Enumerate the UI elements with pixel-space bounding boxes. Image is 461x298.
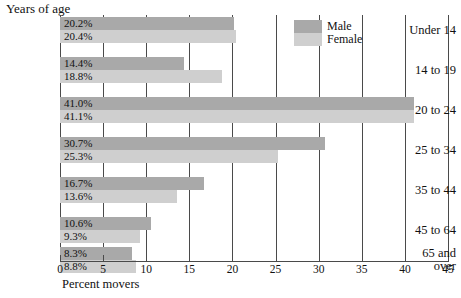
bar-group-4-female: 25.3% [60, 150, 448, 163]
bar-group-2-female: 18.8% [60, 70, 448, 83]
legend-swatch-female-icon [294, 33, 322, 46]
bar-value-label: 10.6% [64, 217, 92, 230]
category-label-3: 20 to 24 [400, 104, 456, 117]
category-label-2: 14 to 19 [400, 64, 456, 77]
bar-value-label: 14.4% [64, 57, 92, 70]
x-tick-label-30: 30 [304, 263, 334, 275]
category-label-5: 35 to 44 [400, 184, 456, 197]
tick-mark-25 [276, 255, 277, 262]
category-label-4: 25 to 34 [400, 144, 456, 157]
bar-group-6-female: 9.3% [60, 230, 448, 243]
bar-value-label: 25.3% [64, 150, 92, 163]
bar-male-4 [60, 137, 325, 150]
bar-group-7-male: 8.3% [60, 247, 448, 260]
bar-group-1-female: 20.4% [60, 30, 448, 43]
bar-group-3-male: 41.0% [60, 97, 448, 110]
legend-swatch-male-icon [294, 20, 322, 33]
bar-value-label: 8.3% [64, 247, 87, 260]
bar-value-label: 30.7% [64, 137, 92, 150]
bar-value-label: 13.6% [64, 190, 92, 203]
legend-item-female: Female [294, 33, 362, 46]
bar-value-label: 16.7% [64, 177, 92, 190]
bar-value-label: 41.1% [64, 110, 92, 123]
bar-female-3 [60, 110, 414, 123]
bar-group-1-male: 20.2% [60, 17, 448, 30]
bar-value-label: 20.2% [64, 17, 92, 30]
bar-group-6-male: 10.6% [60, 217, 448, 230]
tick-mark-30 [319, 255, 320, 262]
bar-group-5-male: 16.7% [60, 177, 448, 190]
bar-female-4 [60, 150, 278, 163]
x-tick-label-5: 5 [88, 263, 118, 275]
bar-value-label: 9.3% [64, 230, 87, 243]
category-label-6: 45 to 64 [400, 224, 456, 237]
legend-label: Female [327, 33, 362, 46]
x-axis-line [60, 261, 448, 262]
x-tick-label-15: 15 [174, 263, 204, 275]
bar-value-label: 41.0% [64, 97, 92, 110]
tick-mark-35 [362, 255, 363, 262]
plot-area: 20.2%20.4%14.4%18.8%41.0%41.1%30.7%25.3%… [60, 15, 448, 261]
bar-value-label: 8.8% [64, 260, 87, 273]
bar-value-label: 18.8% [64, 70, 92, 83]
x-tick-label-10: 10 [131, 263, 161, 275]
x-tick-label-35: 35 [347, 263, 377, 275]
bar-group-2-male: 14.4% [60, 57, 448, 70]
x-tick-label-20: 20 [217, 263, 247, 275]
category-label-1: Under 14 [400, 24, 456, 37]
tick-mark-20 [232, 255, 233, 262]
tick-mark-5 [103, 255, 104, 262]
tick-mark-15 [189, 255, 190, 262]
tick-mark-10 [146, 255, 147, 262]
bar-group-4-male: 30.7% [60, 137, 448, 150]
bar-value-label: 20.4% [64, 30, 92, 43]
bar-group-3-female: 41.1% [60, 110, 448, 123]
x-axis-title: Percent movers [62, 277, 139, 292]
bar-group-5-female: 13.6% [60, 190, 448, 203]
bar-male-3 [60, 97, 414, 110]
chart-legend: MaleFemale [294, 20, 362, 46]
x-tick-label-25: 25 [261, 263, 291, 275]
tick-mark-0 [60, 255, 61, 262]
category-label-7: over [400, 260, 456, 273]
